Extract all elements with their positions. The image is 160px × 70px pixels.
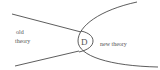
old-theory-lower-boundary xyxy=(15,51,79,66)
theory-diagram: old theory new theory D xyxy=(0,0,160,70)
new-theory-label: new theory xyxy=(100,41,127,47)
overlap-region-label: D xyxy=(81,37,88,47)
old-theory-label-line2: theory xyxy=(15,38,30,44)
old-theory-label-line1: old xyxy=(16,29,24,35)
